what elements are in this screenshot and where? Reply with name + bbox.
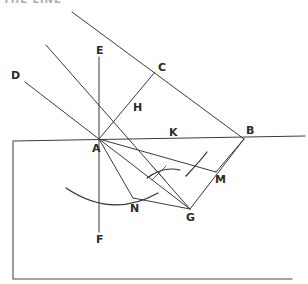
point-label-A: A bbox=[92, 142, 101, 155]
segment-H-to-A bbox=[99, 102, 130, 139]
segment-A-to-M bbox=[99, 139, 216, 172]
construction-drawing: ABCDEFGHKMN bbox=[0, 0, 308, 284]
point-label-N: N bbox=[130, 202, 140, 215]
point-label-K: K bbox=[169, 126, 178, 139]
line-segments-group bbox=[13, 12, 305, 232]
compass-arcs-group bbox=[66, 152, 207, 205]
geometric-diagram-canvas: THE LINE ABCDEFGHKMN bbox=[0, 0, 308, 284]
point-label-B: B bbox=[246, 124, 255, 137]
construction-arc-crossing bbox=[147, 169, 180, 178]
horizontal-baseline bbox=[13, 136, 305, 141]
segment-A-to-N bbox=[99, 139, 133, 198]
main-compass-arc bbox=[66, 188, 158, 205]
point-label-H: H bbox=[133, 101, 143, 114]
point-label-M: M bbox=[215, 173, 226, 186]
point-label-F: F bbox=[96, 233, 104, 246]
point-label-C: C bbox=[158, 61, 166, 74]
point-labels-group: ABCDEFGHKMN bbox=[11, 44, 255, 246]
point-label-D: D bbox=[11, 69, 20, 82]
page-border-frame bbox=[13, 142, 292, 279]
page-border-rectangle bbox=[13, 142, 292, 279]
ray-upper-left-to-B-through-C bbox=[72, 12, 244, 139]
point-label-E: E bbox=[96, 44, 104, 57]
segment-A-to-G-chord bbox=[99, 139, 190, 209]
ray-D-to-A bbox=[25, 82, 99, 139]
point-label-G: G bbox=[186, 211, 195, 224]
segment-C-to-H bbox=[130, 72, 155, 102]
